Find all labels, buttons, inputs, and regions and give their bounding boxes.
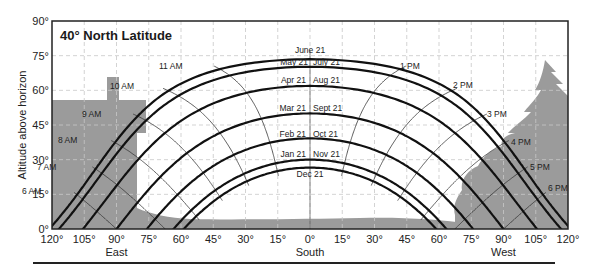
direction-label: East	[105, 246, 127, 258]
x-tick-label: 90°	[495, 233, 512, 245]
x-tick-label: 0°	[305, 233, 316, 245]
x-tick-label: 45°	[205, 233, 222, 245]
x-tick-label: 90°	[108, 233, 125, 245]
date-label: May 21	[280, 57, 308, 67]
x-tick-label: 15°	[269, 233, 286, 245]
hour-label: 9 AM	[82, 109, 101, 119]
y-tick-label: 0°	[38, 223, 49, 235]
date-label: Feb 21	[280, 129, 307, 139]
date-label: July 21	[313, 57, 340, 67]
hour-label: 10 AM	[110, 81, 134, 91]
hour-label: 4 PM	[511, 137, 531, 147]
x-tick-label: 120°	[557, 233, 580, 245]
hour-line	[133, 114, 222, 201]
x-tick-label: 60°	[431, 233, 448, 245]
y-tick-label: 90°	[32, 15, 49, 27]
hour-label: 2 PM	[453, 80, 473, 90]
direction-label: South	[296, 246, 325, 258]
chart-title: 40° North Latitude	[60, 28, 172, 43]
date-label: Nov 21	[313, 149, 340, 159]
direction-label: West	[491, 246, 516, 258]
date-label: Jan 21	[280, 149, 306, 159]
x-tick-label: 60°	[173, 233, 190, 245]
date-label: June 21	[295, 45, 326, 55]
y-axis-label: Altitude above horizon	[16, 71, 28, 180]
y-tick-label: 15°	[32, 188, 49, 200]
hour-label: 3 PM	[487, 109, 507, 119]
date-label: Apr 21	[281, 75, 306, 85]
date-label: Oct 21	[313, 129, 338, 139]
y-tick-label: 60°	[32, 84, 49, 96]
x-tick-label: 105°	[524, 233, 547, 245]
y-tick-label: 30°	[32, 154, 49, 166]
date-label: Sept 21	[313, 103, 343, 113]
date-label: Dec 21	[297, 169, 324, 179]
hour-label: 5 PM	[530, 162, 550, 172]
x-tick-label: 105°	[73, 233, 96, 245]
hour-label: 1 PM	[400, 61, 420, 71]
x-tick-label: 75°	[140, 233, 157, 245]
date-label: Mar 21	[280, 103, 307, 113]
y-tick-label: 75°	[32, 50, 49, 62]
sun-path-chart: June 21May 21July 21Apr 21Aug 21Mar 21Se…	[0, 0, 594, 271]
hour-label: 6 PM	[548, 183, 568, 193]
date-label: Aug 21	[313, 75, 340, 85]
hour-label: 11 AM	[159, 61, 182, 71]
x-tick-label: 15°	[334, 233, 351, 245]
hour-label: 8 AM	[58, 135, 77, 145]
x-tick-label: 75°	[463, 233, 480, 245]
x-tick-label: 45°	[398, 233, 415, 245]
x-tick-label: 30°	[366, 233, 383, 245]
y-tick-label: 45°	[32, 119, 49, 131]
x-tick-label: 30°	[237, 233, 254, 245]
